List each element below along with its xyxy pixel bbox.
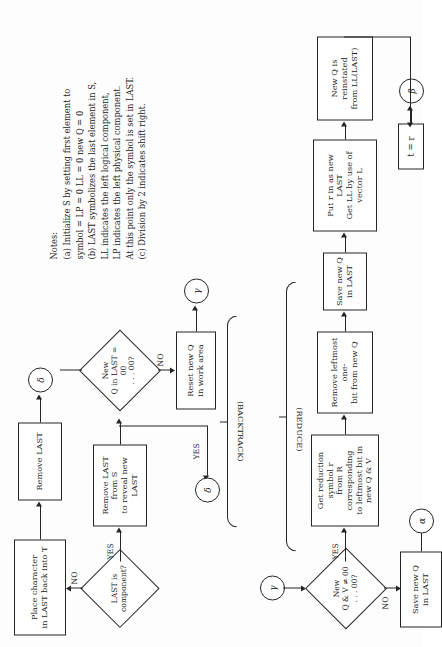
connector-delta-mid: δ	[195, 477, 220, 502]
decision-new-q-in-last-zero: New Q in LAST = 00 . . . 00?	[80, 315, 160, 425]
line-reinstated-left	[410, 36, 411, 123]
group-label-reduce: (REDUCE)	[295, 407, 305, 451]
process-new-q-reinstated: New Q is reinstated from LL(LAST)	[317, 36, 373, 120]
notes-line-3: LL indicates the left logical component,	[99, 76, 111, 259]
connector-delta-mid-label: δ	[203, 487, 213, 492]
notes-line-2: (b) LAST symbolizes the last element in …	[86, 76, 98, 259]
process-place-character-label: Place character in LAST back into T	[30, 546, 49, 628]
line-yes2-left	[207, 425, 208, 475]
process-reset-new-q: Reset new Q in work area	[176, 331, 216, 409]
decision-new-q-and-v-label: New Q & V ≠ 00 . . . 00?	[333, 566, 359, 610]
branch-label-yes-3: YES	[331, 543, 340, 559]
notes-line-5: At this point only the symbol is set in …	[124, 76, 136, 259]
notes-heading: Notes:	[48, 76, 60, 259]
process-new-q-reinstated-label: New Q is reinstated from LL(LAST)	[330, 40, 359, 116]
branch-label-no-2: NO	[156, 353, 165, 366]
process-get-reduction-symbol-label: Get reduction symbol r from R correspond…	[316, 438, 374, 522]
line-place-to-remove	[40, 505, 41, 539]
branch-label-yes-1: YES	[106, 543, 115, 559]
decision-new-q-and-v: New Q & V ≠ 00 . . . 00?	[306, 535, 386, 641]
notes-line-6: (c) Division by 2 indicates shift right.	[136, 76, 148, 259]
arrow-yes-to-remove-from-s	[116, 527, 122, 532]
line-yes3-right	[345, 531, 346, 561]
connector-delta-top-label: δ	[36, 377, 46, 382]
connector-gamma-mid: γ	[260, 575, 285, 600]
connector-gamma-top-label: γ	[192, 288, 202, 293]
line-putr-to-reinstated	[345, 125, 346, 139]
arrow-remove-to-delta	[36, 394, 42, 399]
line-removebit-to-save2	[345, 315, 346, 331]
arrow-no-to-reset	[170, 367, 175, 373]
brace-backtrack-tick	[220, 421, 227, 422]
process-reset-new-q-label: Reset new Q in work area	[186, 344, 205, 396]
line-save-to-alpha	[421, 531, 422, 551]
arrow-removebit-to-save2	[341, 311, 347, 316]
arrow-into-tr	[407, 122, 413, 127]
process-save-new-q-in-last-2-label: Save new Q in LAST	[335, 256, 354, 306]
line-yes-to-remove-from-s	[120, 531, 121, 561]
notes-line-1: symbol = LP = 0 LL = 0 new Q = 0	[74, 76, 86, 259]
arrow-no-to-place	[66, 585, 71, 591]
line-yes2-leftvert	[119, 425, 207, 426]
connector-alpha: α	[409, 508, 434, 533]
line-reinstated-down	[344, 36, 410, 37]
line-gamma-to-decision3	[283, 587, 303, 588]
connector-delta-top: δ	[28, 367, 53, 392]
process-t-equals-r-label: t = r	[406, 136, 416, 156]
branch-label-no-1: NO	[70, 571, 79, 584]
connector-alpha-label: α	[417, 517, 427, 523]
process-remove-leftmost-one-bit: Remove leftmost one- bit from new Q	[317, 331, 373, 413]
branch-label-no-3: NO	[381, 596, 390, 609]
branch-label-yes-2: YES	[192, 443, 201, 459]
line-no-to-place	[71, 587, 83, 588]
line-remove-to-delta	[40, 398, 41, 422]
line-save2-to-putr	[345, 236, 346, 252]
process-t-equals-r: t = r	[398, 123, 424, 169]
arrow-putr-to-reinstated	[341, 121, 347, 126]
arrow-yes3-right	[341, 527, 347, 532]
notes-block: Notes: (a) Initialize S by setting first…	[48, 76, 149, 259]
arrow-get-to-removebit	[341, 414, 347, 419]
process-place-character: Place character in LAST back into T	[14, 539, 66, 635]
connector-gamma-top: γ	[184, 278, 209, 303]
process-save-new-q-in-last-2: Save new Q in LAST	[323, 252, 367, 310]
connector-gamma-mid-label: γ	[268, 585, 278, 590]
process-get-reduction-symbol: Get reduction symbol r from R correspond…	[311, 434, 379, 526]
notes-line-0: (a) Initialize S by setting first elemen…	[61, 76, 73, 259]
process-remove-last: Remove LAST	[18, 422, 62, 500]
process-save-new-q-in-last: Save new Q in LAST	[400, 551, 442, 627]
line-reset-to-gamma	[196, 309, 197, 331]
connector-beta-label: β	[407, 88, 417, 93]
arrow-reset-to-gamma	[192, 305, 198, 310]
process-remove-leftmost-one-bit-label: Remove leftmost one- bit from new Q	[330, 335, 359, 409]
brace-reduce-tick	[279, 416, 286, 417]
group-label-backtrack: (BACKTRACK)	[236, 400, 246, 461]
process-put-r-in-as-new-last-label: Put r in as new LAST Get LL by use of ve…	[326, 143, 365, 227]
process-save-new-q-in-last-label: Save new Q in LAST	[411, 565, 430, 614]
line-yes2-up	[60, 369, 82, 370]
notes-line-4: LP indicates the left physical component…	[111, 76, 123, 259]
connector-beta: β	[399, 78, 424, 103]
line-get-to-removebit	[345, 418, 346, 434]
decision-new-q-in-last-zero-label: New Q in LAST = 00 . . . 00?	[102, 343, 137, 398]
arrow-save2-to-putr	[341, 232, 347, 237]
arrow-place-to-remove	[36, 501, 42, 506]
process-remove-last-from-s-label: Remove LAST from S to reveal new LAST	[101, 448, 140, 522]
process-remove-last-from-s: Remove LAST from S to reveal new LAST	[93, 444, 147, 526]
process-put-r-in-as-new-last: Put r in as new LAST Get LL by use of ve…	[313, 139, 377, 231]
decision-last-is-component-label: LAST is component?	[111, 565, 129, 612]
process-remove-last-label: Remove LAST	[35, 432, 45, 490]
